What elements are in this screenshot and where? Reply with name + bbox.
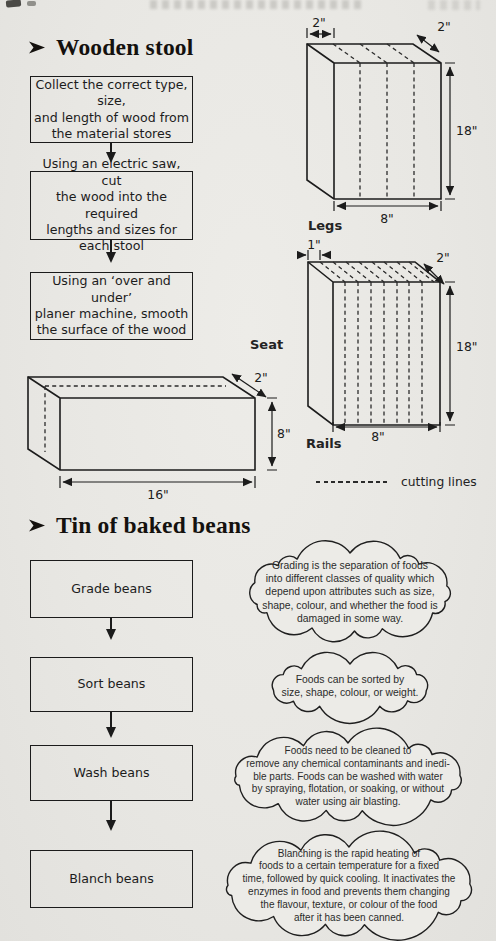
heading-text: Wooden stool bbox=[56, 34, 194, 61]
heading-text: Tin of baked beans bbox=[56, 512, 251, 539]
section-heading-wooden-stool: Wooden stool bbox=[28, 34, 194, 61]
legs-top-width-dim: 2" bbox=[312, 15, 326, 30]
legs-height-dim: 18" bbox=[456, 123, 477, 138]
print-bleed-artifact bbox=[150, 0, 365, 9]
section-heading-baked-beans: Tin of baked beans bbox=[28, 512, 251, 539]
flow-step-wash-beans: Wash beans bbox=[30, 745, 193, 801]
note-text: Foods can be sorted by size, shape, colo… bbox=[265, 658, 434, 713]
flow-arrow bbox=[106, 618, 116, 640]
seat-depth-dim: 2" bbox=[254, 370, 268, 385]
document-page: Wooden stool Collect the correct type, s… bbox=[0, 0, 496, 941]
legs-label: Legs bbox=[308, 218, 342, 233]
rails-diagram: 1" 2" 18" 8" bbox=[286, 236, 496, 462]
print-artifact bbox=[6, 0, 22, 8]
cutting-lines-legend: cutting lines bbox=[316, 475, 477, 489]
arrow-bullet-icon bbox=[28, 518, 46, 533]
rails-height-dim: 18" bbox=[456, 339, 477, 354]
rails-strip-dim: 1" bbox=[307, 237, 321, 252]
rails-label: Rails bbox=[306, 436, 341, 451]
flow-step-grade-beans: Grade beans bbox=[30, 560, 193, 618]
note-bubble-blanching: Blanching is the rapid heating of foods … bbox=[216, 837, 482, 935]
seat-diagram: 2" 8" 16" bbox=[18, 360, 296, 510]
flow-step-blanch-beans: Blanch beans bbox=[30, 850, 193, 908]
seat-width-dim: 16" bbox=[147, 487, 168, 502]
flow-arrow bbox=[106, 712, 116, 738]
print-bleed-artifact bbox=[428, 0, 480, 10]
note-text: Foods need to be cleaned to remove any c… bbox=[231, 739, 464, 815]
flow-step-sort-beans: Sort beans bbox=[30, 657, 193, 712]
flow-arrow bbox=[106, 801, 116, 831]
note-bubble-washing: Foods need to be cleaned to remove any c… bbox=[224, 733, 472, 821]
note-bubble-grading: Grading is the separation of foods into … bbox=[240, 543, 460, 641]
note-text: Blanching is the rapid heating of foods … bbox=[224, 844, 474, 928]
flow-step-plane-wood: Using an ‘over and under’ planer machine… bbox=[30, 272, 193, 340]
flow-arrow bbox=[106, 240, 116, 263]
flow-step-collect-wood: Collect the correct type, size, and leng… bbox=[30, 76, 193, 143]
rails-width-dim: 8" bbox=[371, 429, 385, 444]
dashed-line-sample bbox=[316, 481, 390, 483]
note-bubble-sorting: Foods can be sorted by size, shape, colo… bbox=[260, 654, 440, 718]
rails-depth-dim: 2" bbox=[436, 250, 450, 265]
seat-label: Seat bbox=[250, 337, 283, 352]
note-text: Grading is the separation of foods into … bbox=[247, 550, 454, 634]
arrow-bullet-icon bbox=[28, 40, 46, 55]
legs-width-dim: 8" bbox=[380, 211, 394, 226]
print-artifact bbox=[27, 1, 36, 6]
legs-depth-dim: 2" bbox=[437, 19, 451, 34]
legend-label: cutting lines bbox=[401, 475, 477, 489]
legs-diagram: 2" 2" 18" 8" bbox=[286, 12, 496, 240]
seat-height-dim: 8" bbox=[277, 426, 291, 441]
flow-step-cut-wood: Using an electric saw, cut the wood into… bbox=[30, 171, 193, 240]
